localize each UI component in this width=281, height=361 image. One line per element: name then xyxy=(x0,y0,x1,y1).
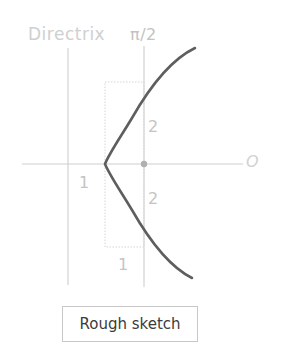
pole-label: O xyxy=(246,154,259,170)
pole-focus-dot xyxy=(141,161,147,167)
caption-box: Rough sketch xyxy=(62,306,198,342)
caption-text: Rough sketch xyxy=(79,317,180,332)
distance-label-bottom-one: 1 xyxy=(118,257,128,273)
distance-label-upper-two: 2 xyxy=(148,119,158,135)
directrix-label: Directrix xyxy=(28,26,105,43)
distance-label-lower-two: 2 xyxy=(148,191,158,207)
distance-label-left-one: 1 xyxy=(79,175,89,191)
pi-half-label: π/2 xyxy=(130,27,157,43)
